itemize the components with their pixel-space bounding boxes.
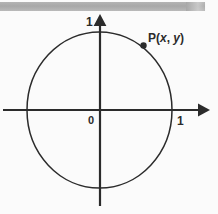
point-p-x-variable: x (160, 31, 167, 45)
point-p-marker (140, 42, 146, 48)
x-axis-arrowhead-icon (198, 104, 210, 117)
point-p-prefix: P( (148, 31, 160, 45)
y-axis-tick-label-1: 1 (86, 16, 93, 28)
unit-circle-plot (0, 0, 218, 214)
unit-circle-figure: 1 1 0 P(x, y) (0, 0, 218, 214)
origin-label: 0 (88, 115, 94, 126)
point-p-suffix: ) (180, 31, 184, 45)
point-p-label: P(x, y) (148, 32, 184, 44)
x-axis-tick-label-1: 1 (177, 115, 184, 127)
y-axis-arrowhead-icon (94, 14, 107, 26)
